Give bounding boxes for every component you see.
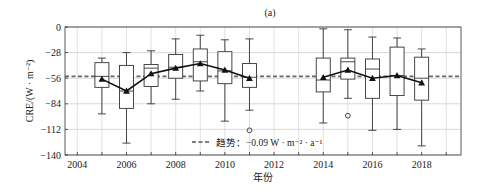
x-tick-label: 2012	[264, 159, 284, 170]
box-iqr	[95, 63, 109, 88]
y-tick-label: −140	[40, 150, 61, 161]
y-tick-label: −84	[45, 98, 61, 109]
x-tick-label: 2004	[67, 159, 87, 170]
legend-label: 趋势：−0.09 W · m⁻² · a⁻¹	[216, 137, 322, 148]
box-iqr	[415, 57, 429, 100]
legend: 趋势：−0.09 W · m⁻² · a⁻¹	[192, 137, 322, 148]
box-2017	[390, 38, 404, 129]
y-axis-label: CRE/(W · m⁻²)	[24, 60, 36, 123]
chart-title: (a)	[264, 7, 275, 19]
box-plots	[95, 29, 429, 146]
box-2018	[415, 49, 429, 146]
x-axis-label: 年份	[253, 171, 273, 183]
y-tick-label: −56	[45, 73, 61, 84]
box-2005	[95, 58, 109, 114]
box-2010	[218, 40, 232, 121]
chart-container: 20042006200820102012201420162018 0−28−56…	[0, 0, 488, 193]
x-tick-label: 2010	[215, 159, 235, 170]
x-tick-label: 2006	[116, 159, 136, 170]
x-tick-label: 2018	[412, 159, 432, 170]
box-iqr	[390, 47, 404, 95]
x-tick-label: 2008	[166, 159, 186, 170]
x-tick-label: 2014	[313, 159, 333, 170]
y-tick-label: −112	[41, 124, 61, 135]
y-axis-ticks: 0−28−56−84−112−140	[40, 22, 68, 161]
y-tick-label: 0	[56, 22, 61, 33]
x-tick-label: 2016	[362, 159, 382, 170]
box-2016	[365, 37, 379, 130]
box-plot-chart: 20042006200820102012201420162018 0−28−56…	[0, 0, 488, 193]
y-tick-label: −28	[45, 47, 61, 58]
